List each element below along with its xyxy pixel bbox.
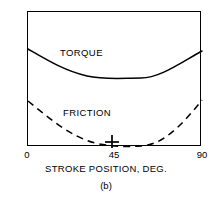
x-tick-label-45: 45 <box>104 149 124 161</box>
x-tick-label-90: 90 <box>193 149 211 161</box>
x-axis-title: STROKE POSITION, DEG. <box>0 163 212 175</box>
plot-area <box>27 11 201 146</box>
plot-canvas <box>27 11 203 148</box>
friction-curve <box>28 100 202 147</box>
x-tick-label-0: 0 <box>20 149 34 161</box>
figure-caption: (b) <box>0 180 212 192</box>
series-label-torque: TORQUE <box>60 47 103 58</box>
series-label-friction: FRICTION <box>63 107 111 118</box>
torque-curve <box>28 49 202 79</box>
figure-panel-b: TORQUE TORQUE FRICTION 0 45 90 STROKE PO… <box>0 0 212 198</box>
